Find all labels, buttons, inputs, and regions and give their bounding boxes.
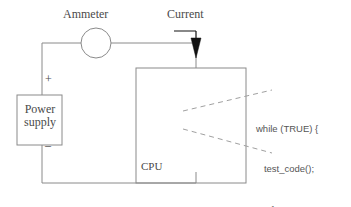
current-label: Current xyxy=(167,8,204,21)
power-supply-label: Power supply xyxy=(17,103,63,130)
ammeter-label: Ammeter xyxy=(63,8,108,21)
circuit-diagram: Ammeter Current Power supply CPU + – whi… xyxy=(0,0,351,207)
current-arrow-head-icon xyxy=(191,38,201,58)
negative-terminal-label: – xyxy=(45,139,51,152)
cpu-label: CPU xyxy=(141,160,162,172)
code-callout-text: while (TRUE) { test_code(); } xyxy=(256,95,318,207)
ammeter-circle xyxy=(81,28,111,58)
code-line-1: while (TRUE) { xyxy=(256,122,318,135)
code-line-3: } xyxy=(256,203,318,207)
positive-terminal-label: + xyxy=(45,73,52,86)
code-line-2: test_code(); xyxy=(256,162,318,175)
